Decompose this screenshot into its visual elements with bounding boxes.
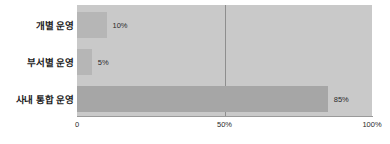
- bar-value-1: 5%: [98, 59, 109, 67]
- bar-1: [77, 49, 92, 75]
- x-axis-line: [77, 116, 373, 117]
- bar-0: [77, 12, 107, 38]
- x-tick-label-0: 0: [75, 121, 79, 129]
- x-tick-label-1: 50%: [217, 121, 232, 129]
- x-tick-label-2: 100%: [362, 121, 381, 129]
- bar-value-0: 10%: [113, 22, 128, 30]
- bar-chart: 개별 운영 부서별 운영 사내 통합 운영 10% 5% 85% 0 50% 1…: [0, 0, 390, 144]
- category-label-1: 부서별 운영: [27, 58, 74, 68]
- bar-value-2: 85%: [334, 96, 349, 104]
- category-label-2: 사내 통합 운영: [16, 95, 74, 105]
- bar-2: [77, 86, 328, 112]
- category-label-0: 개별 운영: [36, 21, 74, 31]
- plot-area: 10% 5% 85%: [77, 5, 372, 116]
